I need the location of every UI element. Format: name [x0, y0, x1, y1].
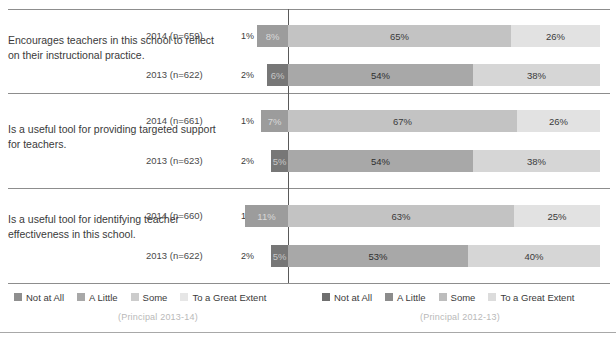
segment-great-value: 38%	[527, 70, 546, 81]
segment-a-little: 5%	[271, 245, 288, 267]
table-row: 2014 (n=659) 1% 8% 65% 26%	[0, 25, 616, 47]
segment-some: 65%	[288, 25, 511, 47]
legend-label: Some	[451, 292, 476, 303]
segment-to-a-great-extent: 26%	[511, 25, 600, 47]
segment-a-little: 6%	[267, 64, 288, 86]
legend-label: Some	[143, 292, 168, 303]
chart-section-3: Is a useful tool for identifying teacher…	[0, 188, 616, 283]
stacked-bar: 5% 54% 38%	[271, 150, 600, 172]
table-row: 2013 (n=622) 2% 5% 53% 40%	[0, 245, 616, 267]
chart-bottom-rule	[0, 332, 616, 333]
segment-some-value: 54%	[371, 156, 390, 167]
section-divider-3	[8, 283, 610, 284]
legend-swatch-a-little-icon	[385, 293, 393, 301]
segment-some: 67%	[288, 110, 517, 132]
segment-a-little-value: 8%	[266, 31, 280, 42]
segment-some-value: 54%	[371, 70, 390, 81]
legend-item[interactable]: Some	[439, 292, 476, 303]
segment-to-a-great-extent: 40%	[468, 245, 600, 267]
chart-section-1: Encourages teachers in this school to re…	[0, 9, 616, 93]
legend-item[interactable]: Not at All	[14, 292, 64, 303]
segment-great-value: 26%	[549, 116, 568, 127]
segment-a-little: 11%	[245, 205, 288, 227]
table-row: 2013 (n=623) 2% 5% 54% 38%	[0, 150, 616, 172]
legend-principal-2012-13: Not at All A Little Some To a Great Exte…	[322, 290, 587, 304]
not-at-all-value: 1%	[236, 110, 254, 132]
segment-great-value: 26%	[546, 31, 565, 42]
table-row: 2014 (n=660) 1% 11% 63% 25%	[0, 205, 616, 227]
legend-item[interactable]: To a Great Extent	[488, 292, 574, 303]
not-at-all-value: 2%	[236, 245, 254, 267]
legend-swatch-not-at-all-icon	[14, 293, 22, 301]
segment-some: 63%	[288, 205, 514, 227]
legend-item[interactable]: Not at All	[322, 292, 372, 303]
row-series-label: 2014 (n=660)	[146, 205, 242, 227]
legend-swatch-great-extent-icon	[180, 293, 188, 301]
segment-a-little-value: 5%	[273, 156, 287, 167]
legend-swatch-some-icon	[131, 293, 139, 301]
segment-a-little-value: 6%	[271, 70, 285, 81]
legend-label: Not at All	[334, 292, 372, 303]
stacked-bar: 11% 63% 25%	[245, 205, 600, 227]
segment-great-value: 25%	[547, 211, 566, 222]
segment-a-little-value: 7%	[268, 116, 282, 127]
legend-item[interactable]: Some	[131, 292, 168, 303]
chart-section-2: Is a useful tool for providing targeted …	[0, 93, 616, 188]
segment-some-value: 67%	[393, 116, 412, 127]
segment-great-value: 40%	[524, 251, 543, 262]
segment-a-little: 8%	[257, 25, 288, 47]
segment-a-little-value: 5%	[273, 251, 287, 262]
segment-some-value: 63%	[391, 211, 410, 222]
stacked-bar: 5% 53% 40%	[271, 245, 600, 267]
survey-diverging-bar-chart: Encourages teachers in this school to re…	[0, 0, 616, 340]
not-at-all-value: 2%	[236, 150, 254, 172]
segment-some: 53%	[288, 245, 468, 267]
stacked-bar: 7% 67% 26%	[261, 110, 600, 132]
legend-swatch-some-icon	[439, 293, 447, 301]
segment-to-a-great-extent: 26%	[517, 110, 600, 132]
legend-label: A Little	[89, 292, 118, 303]
row-series-label: 2014 (n=661)	[146, 110, 242, 132]
segment-some-value: 53%	[368, 251, 387, 262]
legend-label: To a Great Extent	[500, 292, 574, 303]
legend-label: To a Great Extent	[192, 292, 266, 303]
legend-swatch-a-little-icon	[77, 293, 85, 301]
legend-caption-left: (Principal 2013-14)	[118, 312, 198, 322]
segment-a-little: 7%	[261, 110, 288, 132]
segment-to-a-great-extent: 25%	[514, 205, 600, 227]
legend-swatch-great-extent-icon	[488, 293, 496, 301]
table-row: 2014 (n=661) 1% 7% 67% 26%	[0, 110, 616, 132]
legend-label: A Little	[397, 292, 426, 303]
segment-a-little-value: 11%	[257, 211, 275, 222]
segment-some: 54%	[288, 150, 473, 172]
legend-item[interactable]: To a Great Extent	[180, 292, 266, 303]
row-series-label: 2013 (n=623)	[146, 150, 242, 172]
segment-great-value: 38%	[527, 156, 546, 167]
legend-principal-2013-14: Not at All A Little Some To a Great Exte…	[14, 290, 279, 304]
row-series-label: 2014 (n=659)	[146, 25, 242, 47]
not-at-all-value: 2%	[236, 64, 254, 86]
not-at-all-value: 1%	[236, 25, 254, 47]
legend-swatch-not-at-all-icon	[322, 293, 330, 301]
legend-label: Not at All	[26, 292, 64, 303]
legend-caption-right: (Principal 2012-13)	[420, 312, 500, 322]
segment-to-a-great-extent: 38%	[473, 150, 600, 172]
table-row: 2013 (n=622) 2% 6% 54% 38%	[0, 64, 616, 86]
row-series-label: 2013 (n=622)	[146, 64, 242, 86]
stacked-bar: 6% 54% 38%	[267, 64, 600, 86]
stacked-bar: 8% 65% 26%	[257, 25, 600, 47]
row-series-label: 2013 (n=622)	[146, 245, 242, 267]
segment-to-a-great-extent: 38%	[473, 64, 600, 86]
segment-some: 54%	[288, 64, 473, 86]
segment-some-value: 65%	[390, 31, 409, 42]
segment-a-little: 5%	[271, 150, 288, 172]
legend-item[interactable]: A Little	[385, 292, 426, 303]
legend-item[interactable]: A Little	[77, 292, 118, 303]
